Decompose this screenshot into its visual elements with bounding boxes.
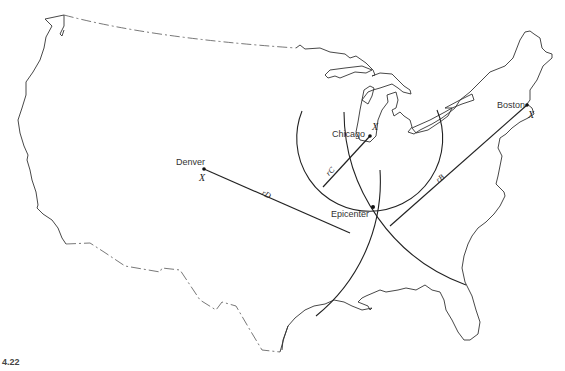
canada-border <box>64 15 296 48</box>
figure-number: 4.22 <box>2 357 20 367</box>
west-coast-outline <box>18 15 66 244</box>
epicenter-label: Epicenter <box>331 209 369 219</box>
chicago-x-marker: X <box>372 121 378 132</box>
us-map-diagram <box>0 0 565 371</box>
boston-dot <box>525 103 529 107</box>
denver-dot <box>202 167 206 171</box>
great-lakes-outline <box>296 31 552 142</box>
boston-label: Boston <box>497 100 525 110</box>
denver-x-marker: X <box>199 172 205 183</box>
epicenter-dot <box>371 205 375 209</box>
denver-ray <box>204 169 350 233</box>
east-coast-outline <box>462 104 534 340</box>
gulf-coast-outline <box>282 285 464 350</box>
texas-coast-outline <box>280 326 288 352</box>
lake-erie-outline <box>412 108 452 133</box>
denver-label: Denver <box>176 157 205 167</box>
mexico-border <box>66 243 280 352</box>
lake-michigan-outline <box>362 86 374 104</box>
lake-superior-outline <box>325 66 372 78</box>
boston-x-marker: X <box>528 109 534 120</box>
chicago-radius-arc <box>297 110 443 211</box>
chicago-label: Chicago <box>332 129 365 139</box>
chicago-dot <box>368 134 372 138</box>
puget-sound-outline <box>60 15 64 36</box>
